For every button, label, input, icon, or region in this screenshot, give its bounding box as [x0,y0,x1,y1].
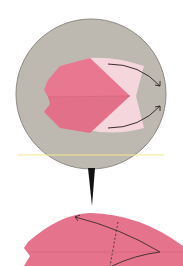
origami-diagram [0,0,183,266]
pointer-triangle [88,168,95,206]
folded-paper-bottom [24,213,183,266]
folded-paper-top [44,58,144,133]
